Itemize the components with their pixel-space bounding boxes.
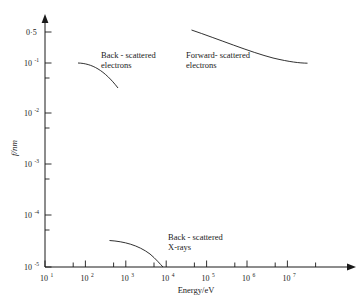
- y-axis-tick-labels: 0·5 10 -1 10 -2 10 -3 10 -4 10 -5: [24, 28, 39, 272]
- y-tick-label-3: 10: [24, 160, 32, 169]
- x-tick-exponent-4: 5: [212, 272, 215, 278]
- y-axis-ticks: [45, 32, 52, 267]
- chart-figure: 10 1 10 2 10 3 10 4 10 5 10 6 10 7: [0, 0, 362, 300]
- y-tick-label-2: 10: [24, 109, 32, 118]
- x-tick-label-3: 10: [161, 274, 169, 283]
- annotation-back-scattered-electrons-line1: Back - scattered: [101, 50, 156, 60]
- annotation-back-scattered-xrays: Back - scattered X-rays: [168, 232, 223, 252]
- x-tick-exponent-3: 4: [172, 272, 175, 278]
- x-axis-arrow-icon: [347, 264, 356, 271]
- annotation-forward-scattered-electrons-line1: Forward- scattered: [186, 50, 251, 60]
- y-tick-exponent-4: -4: [35, 209, 40, 215]
- x-tick-exponent-2: 3: [131, 272, 134, 278]
- y-tick-exponent-5: -5: [35, 261, 40, 267]
- x-tick-label-1: 10: [80, 274, 88, 283]
- x-axis-ticks: [45, 261, 316, 268]
- x-tick-exponent-6: 7: [293, 272, 296, 278]
- annotation-back-scattered-electrons: Back - scattered electrons: [101, 50, 156, 70]
- y-tick-exponent-3: -3: [35, 158, 40, 164]
- y-tick-exponent-1: -1: [35, 57, 40, 63]
- x-tick-label-5: 10: [242, 274, 250, 283]
- y-axis-title: f/nm: [9, 140, 19, 157]
- annotation-back-scattered-xrays-line2: X-rays: [168, 242, 191, 252]
- annotation-forward-scattered-electrons: Forward- scattered electrons: [186, 50, 251, 70]
- x-tick-exponent-0: 1: [51, 272, 54, 278]
- chart-canvas: 10 1 10 2 10 3 10 4 10 5 10 6 10 7: [0, 0, 362, 300]
- x-tick-exponent-1: 2: [91, 272, 94, 278]
- y-tick-label-4: 10: [24, 211, 32, 220]
- annotation-back-scattered-electrons-line2: electrons: [101, 60, 132, 70]
- x-tick-exponent-5: 6: [253, 272, 256, 278]
- curve-back-scattered-xrays: [110, 241, 164, 268]
- x-tick-label-2: 10: [121, 274, 129, 283]
- y-tick-label-0: 0·5: [26, 28, 37, 37]
- x-tick-label-0: 10: [40, 274, 48, 283]
- y-tick-exponent-2: -2: [35, 107, 40, 113]
- x-tick-label-4: 10: [202, 274, 210, 283]
- annotation-forward-scattered-electrons-line2: electrons: [186, 60, 217, 70]
- x-tick-label-6: 10: [282, 274, 290, 283]
- y-axis-arrow-icon: [42, 14, 49, 23]
- x-axis-tick-labels: 10 1 10 2 10 3 10 4 10 5 10 6 10 7: [40, 272, 296, 283]
- y-tick-label-5: 10: [24, 263, 32, 272]
- y-tick-label-1: 10: [24, 59, 32, 68]
- x-axis-title: Energy/eV: [178, 285, 216, 295]
- annotation-back-scattered-xrays-line1: Back - scattered: [168, 232, 223, 242]
